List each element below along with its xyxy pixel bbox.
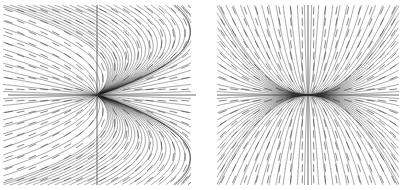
- vector-field-left: [0, 0, 202, 190]
- vector-field-right: [204, 0, 404, 190]
- phase-portrait-left: [0, 0, 202, 190]
- phase-portrait-right: [204, 0, 404, 190]
